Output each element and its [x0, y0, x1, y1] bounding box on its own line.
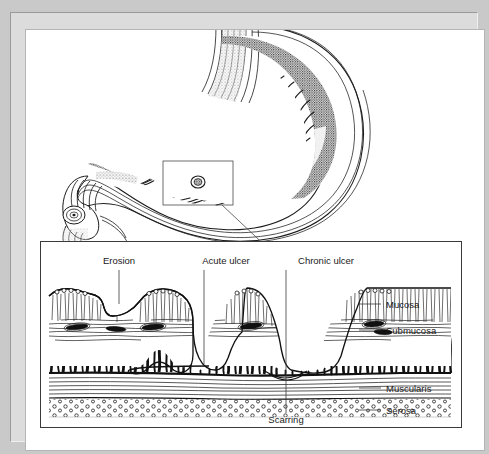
label-chronic-ulcer: Chronic ulcer [298, 255, 354, 266]
figure-frame: Erosion Acute ulcer Chronic ulcer Mucosa… [0, 0, 489, 454]
detail-box: Erosion Acute ulcer Chronic ulcer Mucosa… [40, 241, 462, 428]
figure-canvas: Erosion Acute ulcer Chronic ulcer Mucosa… [25, 29, 485, 451]
label-muscularis: Muscularis [386, 383, 432, 394]
ulcer-crater [191, 176, 205, 188]
label-mucosa: Mucosa [386, 299, 420, 310]
figure-bevel: Erosion Acute ulcer Chronic ulcer Mucosa… [10, 12, 478, 442]
label-submucosa: Submucosa [386, 325, 437, 336]
vessel-cross-section [63, 206, 85, 224]
label-serosa: Serosa [386, 405, 417, 416]
label-acute-ulcer: Acute ulcer [202, 255, 250, 266]
label-erosion: Erosion [103, 255, 135, 266]
label-scarring: Scarring [268, 414, 303, 425]
stomach-overview [26, 30, 484, 256]
